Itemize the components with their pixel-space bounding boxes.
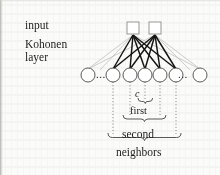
- kohonen-node-2: [123, 68, 137, 82]
- kohonen-node-1: [106, 68, 120, 82]
- input-node-1: [127, 22, 139, 34]
- label-neighbors: neighbors: [116, 146, 161, 158]
- input-nodes: [127, 22, 161, 34]
- ellipsis-right: ...: [178, 68, 188, 80]
- label-second: second: [122, 128, 154, 140]
- label-winner-c: c: [135, 88, 139, 99]
- kohonen-node-winner-c: [138, 68, 152, 82]
- kohonen-node-3: [153, 68, 167, 82]
- ellipsis-left: ...: [96, 68, 106, 80]
- kohonen-node-far-left: [81, 68, 95, 82]
- kohonen-node-far-right: [193, 68, 207, 82]
- label-first: first: [130, 105, 147, 116]
- label-kohonen: Kohonen: [25, 38, 67, 50]
- input-node-2: [149, 22, 161, 34]
- label-input: input: [25, 19, 49, 31]
- label-layer: layer: [25, 51, 48, 63]
- figure-canvas: input Kohonen layer ... ... c first seco…: [0, 0, 220, 175]
